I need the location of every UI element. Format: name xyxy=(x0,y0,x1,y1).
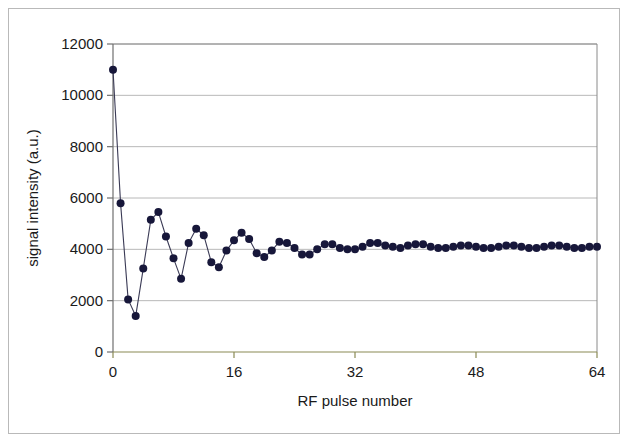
data-point-marker xyxy=(585,243,593,251)
y-tick-label: 8000 xyxy=(70,138,103,155)
data-point-marker xyxy=(555,241,563,249)
data-point-marker xyxy=(321,240,329,248)
data-point-marker xyxy=(570,244,578,252)
x-tick-label: 32 xyxy=(347,363,364,380)
data-point-marker xyxy=(593,243,601,251)
data-point-marker xyxy=(389,243,397,251)
data-point-marker xyxy=(563,243,571,251)
data-point-marker xyxy=(154,208,162,216)
data-point-marker xyxy=(487,244,495,252)
data-point-marker xyxy=(253,249,261,257)
data-point-marker xyxy=(291,244,299,252)
data-point-marker xyxy=(449,243,457,251)
data-point-marker xyxy=(457,241,465,249)
data-point-marker xyxy=(412,240,420,248)
y-tick-label: 2000 xyxy=(70,292,103,309)
data-point-marker xyxy=(283,239,291,247)
data-point-marker xyxy=(442,244,450,252)
data-point-marker xyxy=(548,241,556,249)
data-point-marker xyxy=(578,244,586,252)
data-point-marker xyxy=(192,225,200,233)
data-point-marker xyxy=(245,235,253,243)
x-tick-label: 64 xyxy=(589,363,606,380)
data-point-marker xyxy=(222,247,230,255)
data-point-marker xyxy=(298,250,306,258)
data-point-marker xyxy=(502,241,510,249)
data-point-marker xyxy=(525,244,533,252)
data-point-marker xyxy=(540,243,548,251)
data-point-marker xyxy=(260,253,268,261)
data-point-marker xyxy=(306,250,314,258)
data-point-marker xyxy=(275,238,283,246)
data-point-marker xyxy=(366,239,374,247)
figure-container: 020004000600080001000012000016324864RF p… xyxy=(0,0,628,442)
data-point-marker xyxy=(328,240,336,248)
x-axis-title: RF pulse number xyxy=(297,392,412,409)
data-point-marker xyxy=(268,247,276,255)
data-point-marker xyxy=(343,245,351,253)
data-point-marker xyxy=(374,239,382,247)
data-point-marker xyxy=(404,241,412,249)
data-point-marker xyxy=(207,258,215,266)
data-point-marker xyxy=(472,243,480,251)
data-point-marker xyxy=(336,244,344,252)
x-tick-label: 48 xyxy=(468,363,485,380)
data-point-marker xyxy=(464,241,472,249)
data-point-marker xyxy=(510,241,518,249)
y-axis-title: signal intensity (a.u.) xyxy=(24,129,41,267)
data-point-marker xyxy=(117,199,125,207)
data-point-marker xyxy=(109,66,117,74)
data-point-marker xyxy=(185,239,193,247)
data-point-marker xyxy=(434,244,442,252)
data-point-marker xyxy=(177,275,185,283)
data-point-marker xyxy=(419,240,427,248)
y-tick-label: 10000 xyxy=(61,86,103,103)
data-point-marker xyxy=(132,312,140,320)
data-point-marker xyxy=(495,243,503,251)
data-point-marker xyxy=(381,241,389,249)
y-tick-label: 4000 xyxy=(70,240,103,257)
data-point-marker xyxy=(139,265,147,273)
data-point-marker xyxy=(480,244,488,252)
chart-plot: 020004000600080001000012000016324864RF p… xyxy=(0,0,628,442)
data-point-marker xyxy=(162,233,170,241)
y-tick-label: 0 xyxy=(95,343,103,360)
data-point-marker xyxy=(396,244,404,252)
data-point-marker xyxy=(313,245,321,253)
data-point-marker xyxy=(533,244,541,252)
data-point-marker xyxy=(351,245,359,253)
data-point-marker xyxy=(427,243,435,251)
data-point-marker xyxy=(359,243,367,251)
data-point-marker xyxy=(170,254,178,262)
x-tick-label: 0 xyxy=(109,363,117,380)
y-tick-label: 6000 xyxy=(70,189,103,206)
data-point-marker xyxy=(517,243,525,251)
data-point-marker xyxy=(238,229,246,237)
data-point-marker xyxy=(230,236,238,244)
y-tick-label: 12000 xyxy=(61,35,103,52)
data-point-marker xyxy=(124,295,132,303)
data-point-marker xyxy=(215,263,223,271)
data-point-marker xyxy=(200,231,208,239)
x-tick-label: 16 xyxy=(226,363,243,380)
data-point-marker xyxy=(147,216,155,224)
